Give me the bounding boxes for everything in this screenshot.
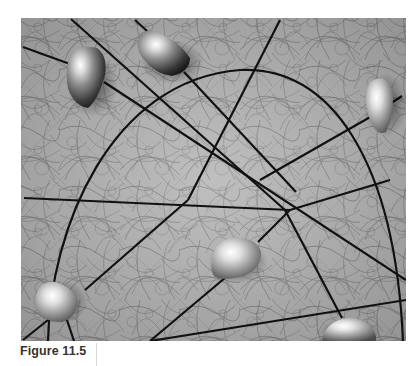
- caption-divider: [96, 343, 97, 366]
- figure-image: [21, 18, 406, 341]
- figure-caption: Figure 11.5: [20, 344, 86, 358]
- diagram-svg: [21, 18, 406, 341]
